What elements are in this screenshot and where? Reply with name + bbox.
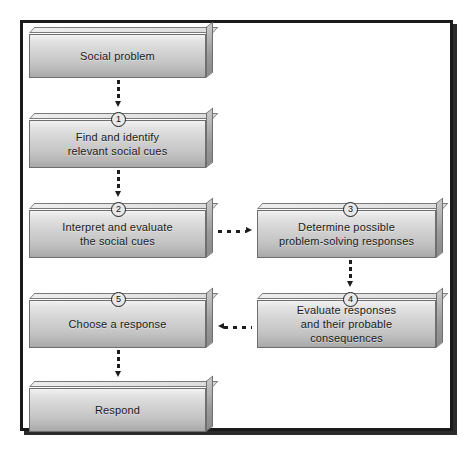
connector-step4-to-step5 bbox=[224, 326, 252, 329]
connector-step5-to-respond bbox=[117, 350, 120, 372]
node-label: Evaluate responses and their probable co… bbox=[258, 303, 435, 345]
step-badge-1: 1 bbox=[111, 112, 126, 127]
connector-step2-to-step3 bbox=[218, 230, 246, 233]
box-top-face bbox=[29, 381, 218, 387]
box-front-face: Social problem bbox=[29, 34, 206, 78]
node-respond[interactable]: Respond bbox=[29, 381, 213, 432]
box-front-face: Respond bbox=[29, 388, 206, 432]
node-label: Determine possible problem-solving respo… bbox=[273, 220, 420, 248]
box-front-face: Choose a response bbox=[29, 300, 206, 348]
box-side-face bbox=[206, 376, 213, 432]
box-side-face bbox=[206, 22, 213, 78]
arrowhead-down-respond bbox=[115, 371, 121, 377]
node-social-problem[interactable]: Social problem bbox=[29, 27, 213, 78]
node-label: Find and identify relevant social cues bbox=[62, 130, 174, 158]
node-label: Social problem bbox=[74, 49, 161, 63]
node-label: Choose a response bbox=[63, 317, 173, 331]
node-label: Interpret and evaluate the social cues bbox=[56, 220, 178, 248]
diagram-canvas: Social problem Find and identify relevan… bbox=[0, 0, 476, 453]
step-badge-3: 3 bbox=[343, 202, 358, 217]
box-side-face bbox=[206, 198, 213, 258]
step-badge-2: 2 bbox=[111, 202, 126, 217]
node-label: Respond bbox=[89, 403, 146, 417]
arrowhead-down-step1 bbox=[115, 101, 121, 107]
step-badge-5: 5 bbox=[111, 292, 126, 307]
box-side-face bbox=[206, 108, 213, 168]
step-badge-4: 4 bbox=[343, 292, 358, 307]
arrowhead-down-step2 bbox=[115, 191, 121, 197]
box-front-face: Find and identify relevant social cues bbox=[29, 120, 206, 168]
arrowhead-left-step5 bbox=[218, 323, 224, 329]
connector-step1-to-step2 bbox=[117, 170, 120, 192]
connector-step3-to-step4 bbox=[349, 260, 352, 282]
box-top-face bbox=[29, 27, 218, 33]
box-front-face: Interpret and evaluate the social cues bbox=[29, 210, 206, 258]
box-side-face bbox=[206, 288, 213, 348]
box-side-face bbox=[436, 198, 443, 258]
arrowhead-right-step3 bbox=[246, 227, 252, 233]
box-front-face: Determine possible problem-solving respo… bbox=[257, 210, 436, 258]
box-side-face bbox=[436, 288, 443, 348]
box-front-face: Evaluate responses and their probable co… bbox=[257, 300, 436, 348]
arrowhead-down-step4 bbox=[347, 281, 353, 287]
connector-social-problem-to-step1 bbox=[117, 80, 120, 102]
